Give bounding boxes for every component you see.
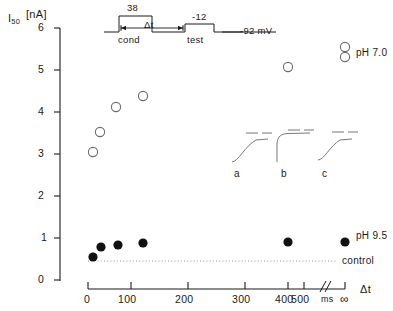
series-ph70-points bbox=[88, 42, 349, 156]
y-tick-label-1: 1 bbox=[41, 231, 47, 243]
data-point bbox=[340, 42, 349, 51]
protocol-test-value: -12 bbox=[192, 11, 207, 22]
y-axis bbox=[54, 28, 60, 281]
y-tick-label-2: 2 bbox=[38, 189, 44, 201]
axis-break-marks bbox=[320, 281, 331, 292]
legend-label-ph95: pH 9.5 bbox=[356, 230, 387, 241]
y-tick-label-4: 4 bbox=[38, 105, 44, 117]
trace-inset-a bbox=[232, 133, 272, 162]
protocol-test-label: test bbox=[187, 34, 204, 45]
figure-canvas: I50 [nA] 6 5 4 3 2 1 0 0 100 200 300 400… bbox=[0, 0, 393, 311]
trace-label-c: c bbox=[322, 168, 327, 179]
y-tick-label-5: 5 bbox=[38, 63, 44, 75]
x-tick-label-300: 300 bbox=[232, 293, 250, 305]
protocol-cond-value: 38 bbox=[127, 2, 138, 13]
protocol-holding-label: -92 mV bbox=[240, 25, 272, 36]
legend-label-ph70: pH 7.0 bbox=[356, 47, 387, 58]
x-tick-label-100: 100 bbox=[118, 293, 136, 305]
interval-arrow-head-right bbox=[178, 26, 183, 30]
data-point bbox=[88, 147, 97, 156]
interval-arrow-head-left bbox=[121, 26, 126, 30]
x-axis-unit-ms: ms bbox=[321, 294, 334, 304]
data-point bbox=[138, 91, 147, 100]
x-tick-label-500: 500 bbox=[291, 293, 309, 305]
data-point bbox=[283, 62, 292, 71]
trace-inset-b bbox=[277, 130, 314, 162]
scatter-plot-svg bbox=[0, 0, 393, 311]
y-axis-title: I50 bbox=[8, 12, 20, 26]
protocol-cond-label: cond bbox=[118, 34, 140, 45]
data-point bbox=[283, 237, 292, 246]
data-point bbox=[113, 240, 122, 249]
data-point bbox=[111, 102, 120, 111]
data-point bbox=[95, 127, 104, 136]
data-point bbox=[88, 252, 97, 261]
trace-inset-c bbox=[318, 132, 358, 160]
x-axis bbox=[88, 281, 345, 292]
trace-label-a: a bbox=[234, 168, 240, 179]
x-tick-label-0: 0 bbox=[84, 293, 90, 305]
y-axis-ticks bbox=[54, 28, 60, 280]
y-tick-label-6: 6 bbox=[38, 21, 44, 33]
data-point bbox=[138, 238, 147, 247]
y-tick-label-0: 0 bbox=[38, 273, 44, 285]
y-axis-title-subscript: 50 bbox=[11, 17, 20, 26]
trace-label-b: b bbox=[281, 168, 287, 179]
x-axis-infinity-label: ∞ bbox=[340, 292, 349, 306]
current-trace-insets bbox=[232, 130, 358, 162]
protocol-interval-label: Δt bbox=[144, 19, 154, 30]
series-ph95-points bbox=[88, 237, 349, 261]
y-axis-unit: [nA] bbox=[26, 8, 47, 20]
data-point bbox=[96, 242, 105, 251]
x-axis-ticks bbox=[88, 282, 345, 289]
y-tick-label-3: 3 bbox=[38, 147, 44, 159]
data-point bbox=[340, 237, 349, 246]
data-point bbox=[340, 52, 349, 61]
control-line-label: control bbox=[342, 255, 374, 266]
x-axis-title: Δt bbox=[360, 283, 371, 295]
x-tick-label-200: 200 bbox=[175, 293, 193, 305]
